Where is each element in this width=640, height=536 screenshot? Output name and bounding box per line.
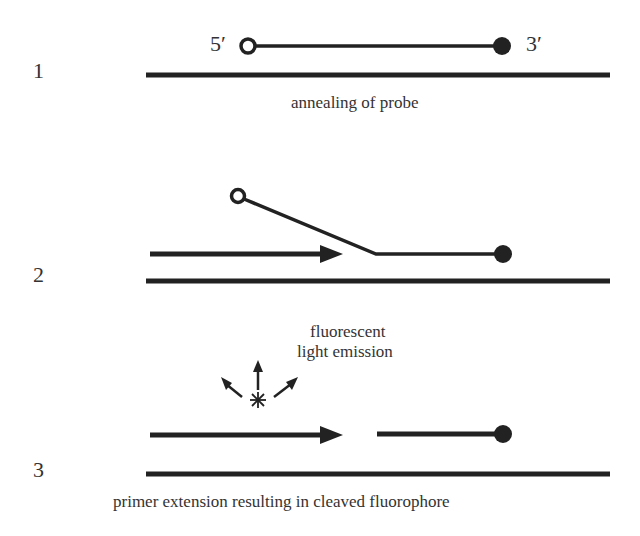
quencher-filled-circle-icon <box>493 37 511 55</box>
step-number-1: 1 <box>33 58 44 84</box>
five-prime-label: 5′ <box>210 31 226 57</box>
reporter-open-circle-icon <box>241 39 255 53</box>
reporter-open-circle-icon <box>232 190 245 203</box>
diagram-canvas <box>0 0 640 536</box>
starburst-icon <box>250 392 266 408</box>
emission-arrows <box>221 360 298 397</box>
arrow-right-icon <box>320 245 343 263</box>
emission-label-line1: fluorescent <box>310 322 386 342</box>
emission-label-line2: light emission <box>297 342 393 362</box>
quencher-filled-circle-icon <box>494 425 512 443</box>
displaced-probe-2 <box>244 199 500 254</box>
caption-step-1: annealing of probe <box>291 93 418 113</box>
step-number-3: 3 <box>33 457 44 483</box>
caption-step-3: primer extension resulting in cleaved fl… <box>113 492 450 512</box>
step-number-2: 2 <box>33 262 44 288</box>
arrow-right-icon <box>320 426 343 444</box>
quencher-filled-circle-icon <box>494 245 512 263</box>
three-prime-label: 3′ <box>526 31 542 57</box>
